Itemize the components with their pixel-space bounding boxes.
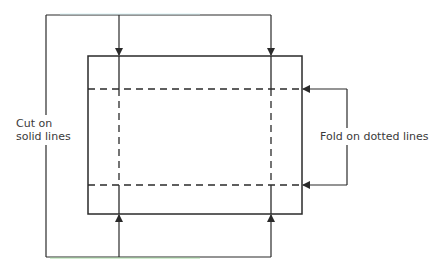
cut-label-line1: Cut on — [16, 117, 71, 130]
diagram-canvas: Cut on solid lines Fold on dotted lines — [0, 0, 445, 270]
paper-rectangle — [88, 56, 302, 214]
cut-label-line2: solid lines — [16, 130, 71, 143]
fold-label: Fold on dotted lines — [318, 128, 431, 145]
cut-label: Cut on solid lines — [16, 115, 71, 145]
